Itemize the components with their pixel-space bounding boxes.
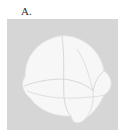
figure-panel	[7, 19, 118, 130]
panel-label: A.	[21, 5, 32, 17]
sphere-illustration	[7, 19, 118, 130]
